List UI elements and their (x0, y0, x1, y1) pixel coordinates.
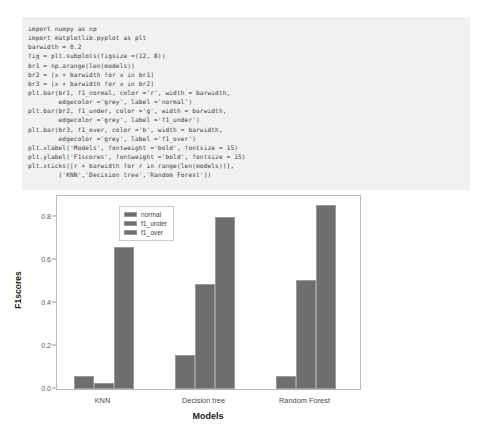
bar-f1_under-knn (94, 383, 114, 389)
y-tick-0.4: 0.4 (0, 299, 56, 306)
code-line: br2 = [x + barwidth for x in br1] (28, 70, 470, 79)
chart-legend: normalf1_underf1_over (119, 206, 174, 241)
bar-normal-decision-tree (175, 355, 195, 389)
x-tick-random-forest: Random Forest (279, 396, 330, 405)
y-tick-0.8: 0.8 (0, 213, 56, 220)
y-tick-mark (52, 216, 56, 217)
y-tick-mark (52, 388, 56, 389)
legend-label: normal (141, 211, 161, 218)
code-line: barwidth = 0.2 (28, 42, 470, 51)
code-line: br3 = [x + barwidth for x in br2] (28, 79, 470, 88)
code-line: plt.xlabel('Models', fontweight ='bold',… (28, 143, 470, 152)
bar-normal-knn (74, 376, 94, 389)
bar-f1_over-knn (114, 247, 134, 389)
legend-label: f1_under (141, 220, 167, 227)
legend-label: f1_over (141, 229, 163, 236)
legend-item-normal: normal (124, 210, 167, 219)
legend-swatch-icon (124, 221, 137, 227)
y-tick-0.6: 0.6 (0, 256, 56, 263)
code-line: edgecolor ='grey', label ='f1_under') (28, 115, 470, 124)
code-line (28, 179, 470, 188)
legend-item-f1_over: f1_over (124, 228, 167, 237)
y-tick-mark (52, 302, 56, 303)
code-line: ['KNN','Decision tree','Random Forest']) (28, 170, 470, 179)
bar-f1_under-random-forest (296, 280, 316, 389)
y-tick-mark (52, 259, 56, 260)
bar-f1_over-random-forest (316, 205, 336, 389)
code-line: plt.bar(br3, f1_over, color ='b', width … (28, 125, 470, 134)
y-tick-0.2: 0.2 (0, 342, 56, 349)
code-line: plt.bar(br1, f1_normal, color ='r', widt… (28, 88, 470, 97)
plot-area (57, 196, 360, 389)
plot-frame: normalf1_underf1_over (56, 195, 361, 390)
code-line: plt.bar(br2, f1_under, color ='g', width… (28, 106, 470, 115)
x-tick-knn: KNN (95, 396, 111, 405)
code-block: import numpy as npimport matplotlib.pypl… (22, 18, 470, 192)
code-line: edgecolor ='grey', label ='normal') (28, 97, 470, 106)
bar-f1_under-decision-tree (195, 284, 215, 389)
code-line: plt.ylabel('F1scores', fontweight ='bold… (28, 152, 470, 161)
legend-swatch-icon (124, 230, 137, 236)
legend-item-f1_under: f1_under (124, 219, 167, 228)
code-line: br1 = np.arange(len(models)) (28, 61, 470, 70)
code-line: import matplotlib.pyplot as plt (28, 33, 470, 42)
legend-swatch-icon (124, 212, 137, 218)
x-axis-label: Models (192, 411, 223, 421)
code-line: import numpy as np (28, 24, 470, 33)
code-line: edgecolor ='grey', label ='f1_over') (28, 134, 470, 143)
code-listing: import numpy as npimport matplotlib.pypl… (28, 24, 470, 192)
code-line: plt.xticks([r + barwidth for r in range(… (28, 161, 470, 170)
bar-f1_over-decision-tree (215, 217, 235, 389)
y-tick-mark (52, 345, 56, 346)
code-line: fig = plt.subplots(figsize =(12, 8)) (28, 51, 470, 60)
matplotlib-figure: F1scores normalf1_underf1_over 0.00.20.4… (0, 190, 479, 439)
bar-normal-random-forest (276, 376, 296, 389)
x-tick-decision-tree: Decision tree (182, 396, 225, 405)
y-tick-0.0: 0.0 (0, 385, 56, 392)
